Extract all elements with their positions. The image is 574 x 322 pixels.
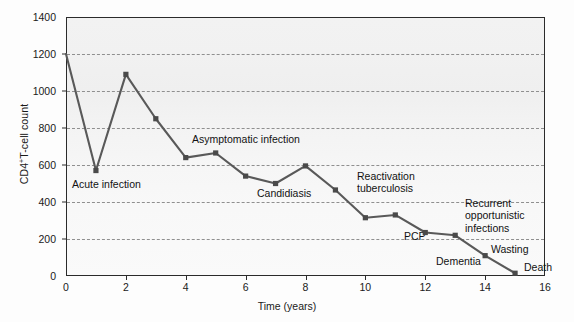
annotation-recurrent-opportunistic-infections-line-1: opportunistic [465, 209, 525, 221]
x-tick-mark-2 [126, 276, 127, 280]
annotation-recurrent-opportunistic-infections-line-2: infections [465, 222, 525, 234]
annotation-death-line-0: Death [524, 261, 552, 273]
x-tick-mark-14 [485, 276, 486, 280]
x-tick-mark-12 [425, 276, 426, 280]
x-tick-label-10: 10 [350, 281, 380, 293]
x-tick-mark-6 [246, 276, 247, 280]
annotation-dementia-line-0: Dementia [436, 255, 481, 267]
annotation-candidiasis: Candidiasis [257, 187, 311, 199]
chart-figure: CD4+T-cell count 02004006008001000120014… [0, 0, 574, 322]
annotation-reactivation-tuberculosis-line-1: tuberculosis [357, 182, 415, 194]
y-tick-mark-1200 [62, 54, 66, 55]
gridline-1000 [67, 91, 544, 92]
x-tick-mark-10 [365, 276, 366, 280]
annotation-recurrent-opportunistic-infections: Recurrentopportunisticinfections [465, 197, 525, 234]
plot-area [66, 17, 545, 276]
annotation-death: Death [524, 261, 552, 273]
y-tick-mark-1000 [62, 91, 66, 92]
annotation-candidiasis-line-0: Candidiasis [257, 187, 311, 199]
y-tick-label-1200: 1200 [10, 48, 56, 60]
annotation-pcp: PCP [404, 230, 426, 242]
x-tick-label-8: 8 [291, 281, 321, 293]
y-tick-label-800: 800 [10, 122, 56, 134]
y-tick-mark-800 [62, 128, 66, 129]
y-tick-label-1400: 1400 [10, 11, 56, 23]
y-tick-mark-400 [62, 202, 66, 203]
gridline-200 [67, 239, 544, 240]
annotation-dementia: Dementia [436, 255, 481, 267]
x-tick-label-4: 4 [171, 281, 201, 293]
annotation-wasting: Wasting [491, 243, 529, 255]
x-tick-label-2: 2 [111, 281, 141, 293]
annotation-asymptomatic-infection-line-0: Asymptomatic infection [192, 133, 300, 145]
x-tick-mark-8 [306, 276, 307, 280]
gridline-600 [67, 165, 544, 166]
annotation-reactivation-tuberculosis-line-0: Reactivation [357, 170, 415, 182]
x-tick-label-16: 16 [530, 281, 560, 293]
x-axis-title: Time (years) [0, 300, 574, 312]
x-tick-label-0: 0 [51, 281, 81, 293]
y-tick-mark-200 [62, 239, 66, 240]
annotation-acute-infection-line-0: Acute infection [72, 178, 141, 190]
y-tick-label-600: 600 [10, 159, 56, 171]
x-tick-label-14: 14 [470, 281, 500, 293]
annotation-asymptomatic-infection: Asymptomatic infection [192, 133, 300, 145]
annotation-pcp-line-0: PCP [404, 230, 426, 242]
y-tick-label-0: 0 [10, 270, 56, 282]
annotation-wasting-line-0: Wasting [491, 243, 529, 255]
annotation-acute-infection: Acute infection [72, 178, 141, 190]
annotation-reactivation-tuberculosis: Reactivationtuberculosis [357, 170, 415, 195]
annotation-recurrent-opportunistic-infections-line-0: Recurrent [465, 197, 525, 209]
x-tick-mark-4 [186, 276, 187, 280]
gridline-1200 [67, 54, 544, 55]
y-tick-mark-600 [62, 165, 66, 166]
gridline-800 [67, 128, 544, 129]
y-tick-label-200: 200 [10, 233, 56, 245]
x-tick-label-6: 6 [231, 281, 261, 293]
y-tick-label-1000: 1000 [10, 85, 56, 97]
x-tick-label-12: 12 [410, 281, 440, 293]
y-tick-label-400: 400 [10, 196, 56, 208]
